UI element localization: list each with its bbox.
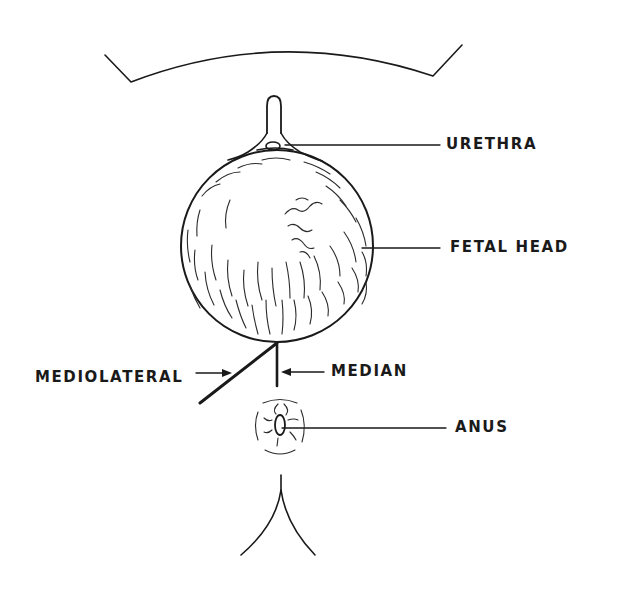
anus-label: ANUS [455,420,509,435]
median-arrow [281,368,324,376]
fetal-hair [187,158,366,334]
gluteal-cleft [241,475,315,555]
mediolateral-arrow [196,369,232,377]
anus [256,400,305,455]
pubic-arch [105,45,462,82]
mediolateral-label: MEDIOLATERAL [35,370,183,385]
episiotomy-diagram [0,0,617,595]
median-label: MEDIAN [331,364,408,379]
fetal-head-label: FETAL HEAD [450,240,569,255]
fetal-head [181,150,373,342]
urethra-opening [266,142,280,150]
clitoris-stalk [228,96,322,161]
urethra-label: URETHRA [446,137,537,152]
